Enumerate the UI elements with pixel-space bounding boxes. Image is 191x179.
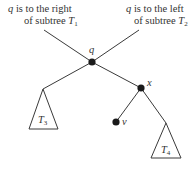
subtree-diagram: q x v T3 T4 q is to the right of subtree… — [0, 0, 191, 179]
node-v-label: v — [122, 116, 127, 127]
svg-text:of subtree T1: of subtree T1 — [24, 15, 78, 28]
edge-q-t3 — [43, 62, 92, 89]
annotation-left: q is to the right of subtree T1 — [8, 3, 78, 28]
edge-to-t1-region — [44, 30, 92, 62]
edge-x-v — [116, 88, 141, 122]
subtree-t4-label: T4 — [161, 144, 171, 157]
edge-q-x — [92, 62, 141, 88]
annotation-right: q is to the left of subtree T2 — [126, 3, 188, 28]
edge-x-t4 — [141, 88, 166, 123]
svg-text:q is to the right: q is to the right — [8, 3, 72, 14]
node-q — [88, 58, 95, 65]
node-v — [112, 118, 119, 125]
edge-to-t2-region — [92, 30, 139, 62]
node-x — [137, 84, 144, 91]
svg-text:q is to the left: q is to the left — [126, 3, 184, 14]
node-x-label: x — [146, 77, 152, 88]
svg-text:of subtree T2: of subtree T2 — [134, 15, 188, 28]
node-q-label: q — [89, 44, 94, 55]
subtree-t3-label: T3 — [38, 114, 48, 127]
